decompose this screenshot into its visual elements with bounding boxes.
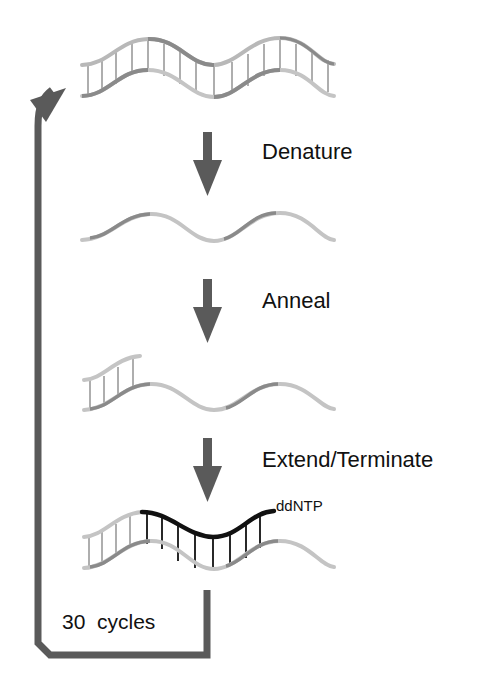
- extended-product: [84, 511, 334, 569]
- step-label-denature: Denature: [262, 139, 353, 165]
- ddntp-label: ddNTP: [276, 497, 323, 514]
- cycles-label: 30 cycles: [62, 610, 155, 634]
- arrow-down-icon: [193, 279, 222, 343]
- arrow-down-icon: [193, 438, 222, 502]
- cycle-return-arrow: [38, 90, 207, 655]
- arrow-down-icon: [193, 132, 222, 196]
- primer-annealed: [84, 356, 334, 410]
- step-label-anneal: Anneal: [262, 288, 331, 314]
- sequencing-diagram: [0, 0, 488, 691]
- step-label-extend-terminate: Extend/Terminate: [262, 447, 433, 473]
- ssdna-denatured: [82, 213, 334, 241]
- dsdna-top: [82, 38, 334, 97]
